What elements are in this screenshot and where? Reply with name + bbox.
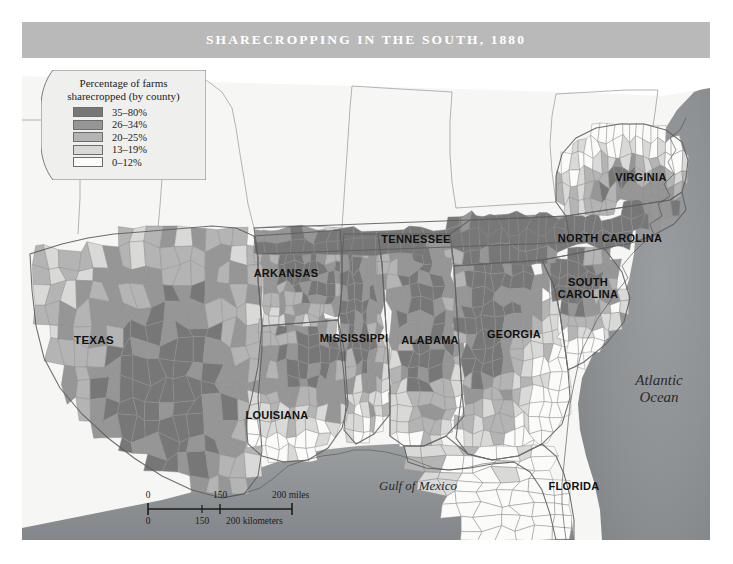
county-texas	[186, 413, 204, 438]
legend-label: 35–80%	[112, 107, 147, 118]
page-title: SHARECROPPING IN THE SOUTH, 1880	[206, 32, 526, 48]
county-georgia	[514, 313, 522, 332]
county-florida	[532, 525, 553, 540]
scale-km-tick-150: 150	[195, 516, 209, 526]
county-georgia	[531, 341, 544, 359]
county-alabama	[408, 366, 419, 378]
scale-miles-tick-0: 0	[146, 490, 151, 500]
county-north-carolina	[612, 215, 623, 234]
county-texas	[106, 325, 123, 348]
county-south-carolina	[567, 287, 578, 304]
county-florida	[552, 515, 571, 529]
legend-label: 0–12%	[112, 157, 142, 168]
county-tennessee	[375, 238, 389, 255]
legend-swatch	[73, 120, 103, 130]
legend-swatch	[73, 132, 103, 142]
county-texas	[76, 379, 90, 400]
county-arkansas	[327, 283, 336, 297]
county-texas	[129, 241, 145, 270]
county-mississippi	[363, 417, 371, 433]
county-tennessee	[326, 241, 338, 255]
scale-bar-graphic	[140, 483, 340, 538]
legend-row: 35–80%	[73, 107, 198, 118]
legend-title-line-2: sharecropped (by county)	[49, 90, 198, 103]
county-georgia	[543, 331, 554, 344]
county-florida	[462, 456, 473, 474]
county-louisiana	[326, 319, 337, 338]
legend-row: 13–19%	[73, 144, 198, 155]
county-arkansas	[262, 293, 271, 308]
water-label-atlantic-ocean: AtlanticOcean	[635, 372, 683, 406]
scale-miles-unit: 200 miles	[272, 490, 309, 500]
county-louisiana	[309, 345, 321, 365]
county-georgia	[472, 286, 485, 308]
county-tennessee	[361, 231, 377, 238]
map-title-band: SHARECROPPING IN THE SOUTH, 1880	[22, 22, 710, 58]
legend-swatch	[73, 107, 103, 117]
county-alabama	[397, 422, 409, 434]
county-texas	[203, 337, 224, 365]
scale-km-tick-0: 0	[146, 516, 151, 526]
county-arkansas	[269, 307, 281, 316]
county-alabama	[389, 405, 397, 422]
scale-miles-tick-150: 150	[213, 490, 227, 500]
county-louisiana	[286, 344, 298, 361]
county-arkansas	[271, 293, 280, 308]
county-texas	[87, 345, 108, 367]
legend-label: 13–19%	[112, 144, 147, 155]
county-south-carolina	[578, 338, 583, 355]
legend-label: 26–34%	[112, 119, 147, 130]
county-georgia	[472, 271, 486, 288]
county-alabama	[398, 342, 414, 351]
county-texas	[50, 325, 59, 339]
legend-row: 26–34%	[73, 119, 198, 130]
legend-swatch	[73, 145, 103, 155]
county-arkansas	[263, 280, 271, 294]
legend-title-line-1: Percentage of farms	[49, 77, 198, 90]
county-north-carolina	[470, 250, 480, 264]
county-texas	[247, 264, 262, 287]
legend-row: 20–25%	[73, 132, 198, 143]
county-texas	[58, 326, 74, 341]
legend-title: Percentage of farms sharecropped (by cou…	[49, 77, 198, 103]
water-label-gulf-of-mexico: Gulf of Mexico	[379, 479, 457, 494]
county-georgia	[522, 313, 532, 335]
county-north-carolina	[500, 243, 510, 264]
county-georgia	[499, 372, 514, 391]
map-canvas: TEXASLOUISIANAARKANSASMISSISSIPPIALABAMA…	[22, 58, 710, 540]
county-texas	[145, 402, 160, 421]
county-louisiana	[320, 345, 330, 364]
legend-row: 0–12%	[73, 157, 198, 168]
scale-bar: 0 150 200 miles 0 150 200 kilometers	[140, 483, 340, 538]
map-legend: Percentage of farms sharecropped (by cou…	[41, 70, 206, 180]
scale-km-unit: 200 kilometers	[226, 516, 283, 526]
county-mississippi	[362, 360, 368, 374]
map-figure: SHARECROPPING IN THE SOUTH, 1880	[0, 0, 733, 564]
legend-label: 20–25%	[112, 132, 147, 143]
legend-swatch	[73, 157, 103, 167]
county-mississippi	[368, 374, 377, 394]
county-georgia	[465, 318, 477, 335]
legend-class-list: 35–80%26–34%20–25%13–19%0–12%	[49, 107, 198, 168]
county-tennessee	[363, 238, 376, 255]
